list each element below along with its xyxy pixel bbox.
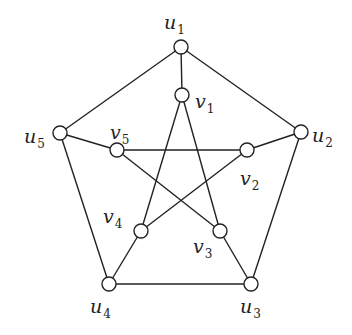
vertex-label-u5: u5 xyxy=(24,125,45,151)
edge-u3-v3 xyxy=(220,231,251,284)
vertex-label-u2: u2 xyxy=(312,124,333,150)
edge-v1-v4 xyxy=(141,95,182,231)
vertex-u1 xyxy=(174,40,188,54)
edge-u2-v2 xyxy=(247,132,301,150)
vertex-label-v4: v4 xyxy=(103,205,123,231)
vertex-label-u4: u4 xyxy=(90,295,111,321)
vertex-v1 xyxy=(175,88,189,102)
node-layer xyxy=(53,40,308,291)
vertex-u2 xyxy=(294,125,308,139)
vertex-v4 xyxy=(134,224,148,238)
vertex-v3 xyxy=(213,224,227,238)
vertex-label-u3: u3 xyxy=(240,295,261,321)
petersen-graph-diagram: u1u2u3u4u5v1v2v3v4v5 xyxy=(0,0,352,335)
edge-v5-v3 xyxy=(117,150,220,231)
vertex-label-v2: v2 xyxy=(240,167,259,193)
edge-v2-v4 xyxy=(141,150,247,231)
vertex-label-v3: v3 xyxy=(193,235,212,261)
edge-u5-v5 xyxy=(60,133,117,150)
vertex-u3 xyxy=(244,277,258,291)
vertex-u4 xyxy=(102,277,116,291)
edge-layer xyxy=(60,47,301,284)
edge-u4-u5 xyxy=(60,133,109,284)
vertex-label-v1: v1 xyxy=(195,90,214,116)
vertex-label-u1: u1 xyxy=(164,11,185,37)
vertex-u5 xyxy=(53,126,67,140)
vertex-v2 xyxy=(240,143,254,157)
graph-canvas: u1u2u3u4u5v1v2v3v4v5 xyxy=(0,0,352,335)
edge-u4-v4 xyxy=(109,231,141,284)
edge-u2-u3 xyxy=(251,132,301,284)
